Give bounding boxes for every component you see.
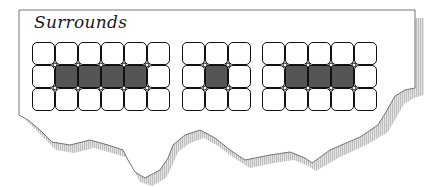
grid-cell-empty [32, 65, 55, 88]
grid-cell-empty [124, 88, 147, 111]
grid-node [99, 86, 104, 91]
grid-cell-empty [228, 65, 251, 88]
grid-node [226, 86, 231, 91]
grid-cell-filled [124, 65, 147, 88]
grid-3 [262, 42, 377, 111]
grid-cell-empty [124, 42, 147, 65]
grid-cell-empty [147, 42, 170, 65]
grid-node [226, 63, 231, 68]
grid-cell-empty [101, 42, 124, 65]
grid-cell-empty [228, 42, 251, 65]
grid-cell-empty [331, 42, 354, 65]
title: Surrounds [34, 12, 127, 32]
grid-cell-empty [262, 88, 285, 111]
grid-cell-empty [205, 42, 228, 65]
grid-node [306, 63, 311, 68]
grid-node [145, 86, 150, 91]
grid-cell-empty [285, 42, 308, 65]
grid-cell-empty [182, 42, 205, 65]
grid-cell-empty [147, 65, 170, 88]
grid-node [283, 63, 288, 68]
grid-node [122, 63, 127, 68]
grid-node [352, 63, 357, 68]
grid-cell-filled [331, 65, 354, 88]
grid-cell-empty [331, 88, 354, 111]
grid-cell-empty [354, 42, 377, 65]
grid-node [352, 86, 357, 91]
grid-node [145, 63, 150, 68]
grid-node [53, 86, 58, 91]
grid-cell-filled [78, 65, 101, 88]
grid-cell-filled [205, 65, 228, 88]
grid-cell-empty [205, 88, 228, 111]
grid-cell-filled [308, 65, 331, 88]
grid-cell-empty [32, 88, 55, 111]
grid-cell-empty [228, 88, 251, 111]
grid-2 [182, 42, 251, 111]
grid-cell-empty [262, 65, 285, 88]
grid-node [76, 63, 81, 68]
grid-cell-empty [55, 42, 78, 65]
grid-cell-empty [32, 42, 55, 65]
grid-node [76, 86, 81, 91]
grid-cell-empty [182, 88, 205, 111]
grid-node [203, 86, 208, 91]
grid-cell-empty [285, 88, 308, 111]
grid-cell-empty [308, 42, 331, 65]
grid-cell-empty [354, 65, 377, 88]
grid-node [122, 86, 127, 91]
grid-node [203, 63, 208, 68]
grid-node [283, 86, 288, 91]
grid-cell-empty [78, 42, 101, 65]
grid-cell-empty [308, 88, 331, 111]
grid-node [329, 86, 334, 91]
grid-cell-empty [101, 88, 124, 111]
grid-cell-empty [147, 88, 170, 111]
grid-cell-empty [55, 88, 78, 111]
grid-node [306, 86, 311, 91]
grid-cell-filled [55, 65, 78, 88]
grid-cell-empty [78, 88, 101, 111]
grid-node [329, 63, 334, 68]
grid-cell-filled [101, 65, 124, 88]
grid-cell-empty [354, 88, 377, 111]
grid-node [99, 63, 104, 68]
grid-cell-filled [285, 65, 308, 88]
grid-1 [32, 42, 170, 111]
grid-cell-empty [182, 65, 205, 88]
grid-cell-empty [262, 42, 285, 65]
grid-node [53, 63, 58, 68]
